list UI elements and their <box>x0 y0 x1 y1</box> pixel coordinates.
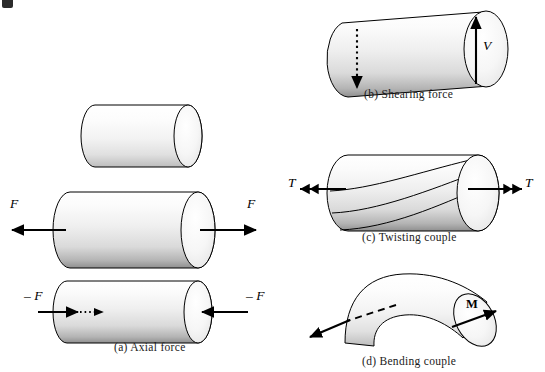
mechanics-loading-diagram <box>0 0 545 372</box>
shear-label-v: V <box>483 38 491 54</box>
caption-panel-d: (d) Bending couple <box>362 355 456 367</box>
caption-panel-b: (b) Shearing force <box>364 88 453 100</box>
figure-root: F F – F – F V T T M (a) Axial force (b) … <box>0 0 545 372</box>
panel-d-bending-bar <box>310 274 505 354</box>
panel-c-twisting-bar <box>300 155 522 231</box>
torque-label-right: T <box>525 175 533 191</box>
moment-arrow-left <box>310 320 350 337</box>
moment-label-m: M <box>466 297 478 312</box>
bar-end-cap <box>457 155 499 231</box>
torque-label-left: T <box>288 175 296 191</box>
bar-end-cap <box>174 105 202 167</box>
tension-label-left: F <box>10 196 18 212</box>
caption-panel-a: (a) Axial force <box>114 341 186 353</box>
panel-a-tension <box>12 192 256 268</box>
panel-a-compression <box>38 281 248 343</box>
caption-panel-c: (c) Twisting couple <box>362 231 457 243</box>
panel-a-unloaded-bar <box>81 105 202 167</box>
compression-label-left: – F <box>24 288 42 304</box>
tension-label-right: F <box>247 196 255 212</box>
page-corner-mark <box>2 0 13 8</box>
compression-label-right: – F <box>246 288 264 304</box>
panel-b-shearing-bar <box>327 11 508 97</box>
